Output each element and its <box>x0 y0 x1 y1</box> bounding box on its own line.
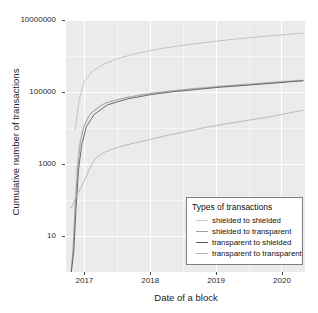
legend: Types of transactions shielded to shield… <box>186 197 303 265</box>
x-tick-label: 2019 <box>207 276 225 285</box>
legend-color-swatch <box>195 248 209 259</box>
x-tick-mark <box>282 272 283 275</box>
legend-label: shielded to shielded <box>212 216 281 225</box>
legend-color-swatch <box>195 237 209 248</box>
legend-label: transparent to transparent <box>212 249 302 258</box>
x-tick-mark <box>216 272 217 275</box>
x-tick-label: 2018 <box>141 276 159 285</box>
x-axis-title: Date of a block <box>66 292 306 303</box>
x-tick-label: 2017 <box>76 276 94 285</box>
legend-label: shielded to transparent <box>212 227 291 236</box>
x-tick-label: 2020 <box>273 276 291 285</box>
legend-color-swatch <box>195 226 209 237</box>
chart-figure: Cumulative number of transactions 100000… <box>0 0 318 313</box>
x-tick-mark <box>150 272 151 275</box>
legend-item: shielded to transparent <box>195 226 297 237</box>
legend-entries: shielded to shieldedshielded to transpar… <box>192 215 297 259</box>
legend-color-swatch <box>195 215 209 226</box>
series-line <box>75 33 303 129</box>
legend-label: transparent to shielded <box>212 238 291 247</box>
series-line <box>71 110 303 208</box>
legend-item: transparent to shielded <box>195 237 297 248</box>
legend-title: Types of transactions <box>192 202 297 212</box>
legend-item: shielded to shielded <box>195 215 297 226</box>
legend-item: transparent to transparent <box>195 248 297 259</box>
x-tick-mark <box>84 272 85 275</box>
